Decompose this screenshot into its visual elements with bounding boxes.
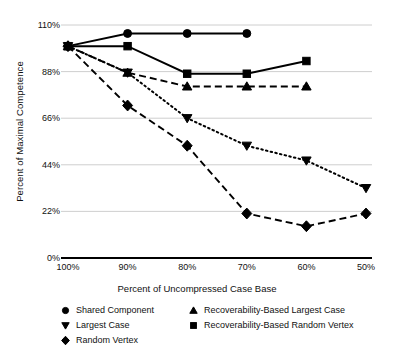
data-point-circle: [62, 307, 68, 313]
legend-item: Shared Component: [60, 303, 188, 318]
data-point-square: [243, 70, 250, 77]
legend-label: Recoverability-Based Random Vertex: [204, 320, 354, 331]
legend-item: Random Vertex: [60, 333, 188, 348]
legend-item: Recoverability-Based Random Vertex: [188, 318, 394, 333]
data-point-diamond: [242, 208, 252, 219]
data-point-triangle-down: [361, 185, 370, 193]
series-diamond: [63, 41, 371, 232]
triangle-up-icon: [188, 305, 199, 316]
diamond-icon: [60, 335, 71, 346]
data-point-triangle-down: [62, 323, 69, 329]
square-icon: [188, 320, 199, 331]
data-point-triangle-down: [242, 142, 251, 150]
data-point-diamond: [182, 140, 192, 151]
data-point-diamond: [62, 336, 70, 345]
x-tick-label: 80%: [157, 262, 217, 272]
x-tick-label: 70%: [217, 262, 277, 272]
data-point-square: [191, 323, 197, 329]
data-point-triangle-down: [182, 115, 191, 123]
data-point-circle: [183, 30, 191, 38]
x-tick-label: 50%: [336, 262, 394, 272]
data-point-diamond: [301, 221, 311, 232]
series-line: [68, 33, 247, 46]
data-point-square: [183, 70, 190, 77]
triangle-down-icon: [60, 320, 71, 331]
chart-legend: Shared ComponentRecoverability-Based Lar…: [60, 303, 394, 348]
legend-label: Shared Component: [76, 305, 154, 316]
data-point-square: [124, 42, 131, 49]
legend-label: Recoverability-Based Largest Case: [204, 305, 345, 316]
data-point-circle: [243, 30, 251, 38]
legend-item: Recoverability-Based Largest Case: [188, 303, 394, 318]
series-line: [68, 46, 306, 86]
plot-area: [0, 0, 394, 354]
series-triangle-up: [63, 42, 311, 90]
legend-label: Largest Case: [76, 320, 130, 331]
circle-icon: [60, 305, 71, 316]
data-point-square: [64, 42, 71, 49]
data-point-square: [303, 57, 310, 64]
x-axis-title: Percent of Uncompressed Case Base: [0, 283, 394, 294]
series-line: [68, 46, 366, 188]
legend-label: Random Vertex: [76, 335, 138, 346]
x-tick-label: 100%: [38, 262, 98, 272]
data-point-diamond: [361, 208, 371, 219]
legend-item: Largest Case: [60, 318, 188, 333]
x-tick-label: 90%: [98, 262, 158, 272]
competence-line-chart: Percent of Maximal Competence 0%22%44%66…: [0, 0, 394, 354]
data-point-circle: [124, 30, 132, 38]
x-tick-label: 60%: [276, 262, 336, 272]
data-point-triangle-up: [190, 307, 197, 313]
